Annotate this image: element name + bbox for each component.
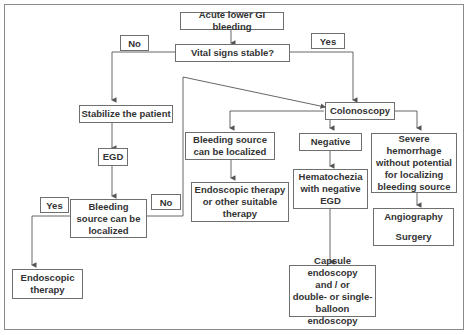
node-capsule-endoscopy: Capsule endoscopy and / or double- or si… <box>289 265 376 317</box>
node-hematochezia: Hematochezia with negative EGD <box>293 169 368 209</box>
node-bleeding-localized-colonoscopy: Bleeding source can be localized <box>185 132 275 160</box>
node-angiography-label: Angiography <box>384 211 443 223</box>
node-stabilize-patient: Stabilize the patient <box>79 105 173 123</box>
node-acute-lower-gi-bleeding: Acute lower GI bleeding <box>180 12 284 30</box>
edge-label-vitals-no: No <box>120 35 149 51</box>
edge-label-bleeding-no: No <box>151 194 181 210</box>
node-egd: EGD <box>98 148 128 166</box>
node-negative: Negative <box>299 133 362 151</box>
node-endoscopic-or-other-therapy: Endoscopic therapy or other suitable the… <box>191 182 289 222</box>
node-severe-hemorrhage: Severe hemorrhage without potential for … <box>371 133 457 193</box>
node-bleeding-localized-egd: Bleeding source can be localized <box>70 199 147 238</box>
node-vital-signs-stable: Vital signs stable? <box>175 44 290 62</box>
node-angiography-surgery: Angiography Surgery <box>373 208 454 246</box>
node-endoscopic-therapy: Endoscopic therapy <box>12 269 83 299</box>
node-colonoscopy: Colonoscopy <box>325 102 395 120</box>
node-surgery-label: Surgery <box>396 231 432 243</box>
edge-label-vitals-yes: Yes <box>311 33 345 49</box>
edge-label-bleeding-yes: Yes <box>40 197 69 213</box>
